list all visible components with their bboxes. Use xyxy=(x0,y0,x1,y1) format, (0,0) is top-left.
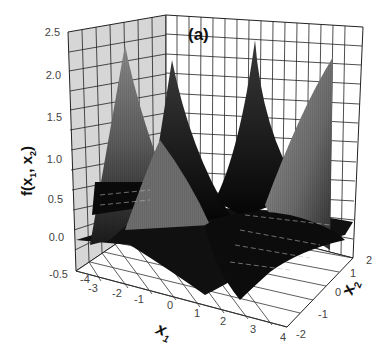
x1-axis-label: x1 xyxy=(152,319,175,345)
svg-text:x1: x1 xyxy=(152,319,175,345)
svg-text:3: 3 xyxy=(250,323,256,335)
svg-text:2: 2 xyxy=(366,254,372,266)
svg-text:-2: -2 xyxy=(296,328,306,340)
z-axis-label: f(x1, x2) xyxy=(18,146,38,196)
svg-text:-1: -1 xyxy=(134,293,144,305)
svg-text:2: 2 xyxy=(220,315,226,327)
svg-text:0.5: 0.5 xyxy=(48,193,63,205)
svg-text:0: 0 xyxy=(167,299,173,311)
svg-text:2.5: 2.5 xyxy=(45,26,60,38)
svg-text:1.5: 1.5 xyxy=(47,111,62,123)
x2-axis-label: x2 xyxy=(338,276,364,298)
svg-text:x2: x2 xyxy=(338,276,364,298)
svg-text:0.0: 0.0 xyxy=(49,231,64,243)
svg-text:1: 1 xyxy=(194,307,200,319)
svg-text:1.0: 1.0 xyxy=(47,153,62,165)
chart-title: (a) xyxy=(188,25,209,44)
svg-text:f(x1, x2): f(x1, x2) xyxy=(18,146,38,196)
surface-plot: 2.5 2.0 1.5 1.0 0.5 0.0 -0.5 -4 -3 -2 -1… xyxy=(0,0,390,364)
svg-text:-1: -1 xyxy=(318,308,328,320)
svg-text:-0.5: -0.5 xyxy=(49,268,68,280)
svg-text:1: 1 xyxy=(350,267,356,279)
svg-text:4: 4 xyxy=(280,331,286,343)
svg-text:2.0: 2.0 xyxy=(46,69,61,81)
svg-text:-3: -3 xyxy=(88,282,98,294)
svg-text:-2: -2 xyxy=(112,287,122,299)
z-axis-ticks: 2.5 2.0 1.5 1.0 0.5 0.0 -0.5 xyxy=(45,26,68,280)
